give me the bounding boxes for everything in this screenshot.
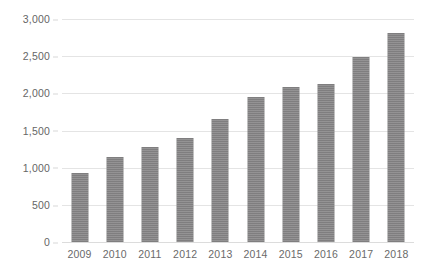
y-axis-tick-label: 0 bbox=[2, 237, 58, 248]
bar-slot bbox=[203, 19, 238, 242]
gridline bbox=[62, 242, 414, 243]
bar bbox=[353, 57, 370, 242]
bar-slot bbox=[97, 19, 132, 242]
x-axis-tick-label: 2010 bbox=[97, 248, 132, 260]
y-axis-tick-text: 2,000 bbox=[23, 87, 50, 99]
x-axis-tick-label: 2009 bbox=[62, 248, 97, 260]
x-axis-tick-label: 2018 bbox=[379, 248, 414, 260]
bar-slot bbox=[344, 19, 379, 242]
x-axis-tick-label: 2013 bbox=[203, 248, 238, 260]
x-axis-tick-label: 2012 bbox=[168, 248, 203, 260]
y-axis-tick-text: 2,500 bbox=[23, 50, 50, 62]
bar bbox=[141, 147, 158, 242]
bar-slot bbox=[132, 19, 167, 242]
bar bbox=[388, 33, 405, 242]
y-axis-tick-label: 1,000 bbox=[2, 162, 58, 173]
y-axis-tick-label: 2,000 bbox=[2, 88, 58, 99]
y-axis-tick-text: 1,000 bbox=[23, 161, 50, 173]
y-axis-tick-text: 3,000 bbox=[23, 13, 50, 25]
y-axis-tick-text: 1,500 bbox=[23, 124, 50, 136]
y-axis-tick-mark bbox=[53, 19, 58, 20]
bar bbox=[247, 97, 264, 242]
x-axis-tick-label: 2011 bbox=[132, 248, 167, 260]
y-axis-tick-mark bbox=[53, 94, 58, 95]
y-axis-tick-mark bbox=[53, 205, 58, 206]
bar bbox=[106, 157, 123, 242]
bar-slot bbox=[273, 19, 308, 242]
y-axis-tick-label: 500 bbox=[2, 199, 58, 210]
y-axis-tick-mark bbox=[53, 131, 58, 132]
y-axis-tick-mark bbox=[53, 242, 58, 243]
x-axis-tick-label: 2015 bbox=[273, 248, 308, 260]
bar bbox=[317, 84, 334, 242]
y-axis-tick-label: 1,500 bbox=[2, 125, 58, 136]
y-axis-tick-labels: 05001,0001,5002,0002,5003,000 bbox=[0, 0, 58, 278]
x-axis-tick-labels: 2009201020112012201320142015201620172018 bbox=[62, 248, 414, 264]
y-axis-tick-mark bbox=[53, 168, 58, 169]
bar-chart: 05001,0001,5002,0002,5003,000 2009201020… bbox=[0, 0, 422, 278]
y-axis-tick-text: 0 bbox=[44, 236, 50, 248]
bar-slot bbox=[62, 19, 97, 242]
y-axis-tick-label: 2,500 bbox=[2, 51, 58, 62]
bar-slot bbox=[379, 19, 414, 242]
bar bbox=[71, 173, 88, 242]
bar-slot bbox=[238, 19, 273, 242]
bar-series bbox=[62, 19, 414, 242]
x-axis-tick-label: 2017 bbox=[344, 248, 379, 260]
x-axis-tick-label: 2016 bbox=[308, 248, 343, 260]
y-axis-tick-mark bbox=[53, 56, 58, 57]
y-axis-tick-text: 500 bbox=[32, 198, 50, 210]
bar-slot bbox=[308, 19, 343, 242]
bar bbox=[212, 119, 229, 242]
bar-slot bbox=[168, 19, 203, 242]
bar bbox=[282, 87, 299, 242]
bar bbox=[177, 138, 194, 242]
y-axis-tick-label: 3,000 bbox=[2, 14, 58, 25]
x-axis-tick-label: 2014 bbox=[238, 248, 273, 260]
